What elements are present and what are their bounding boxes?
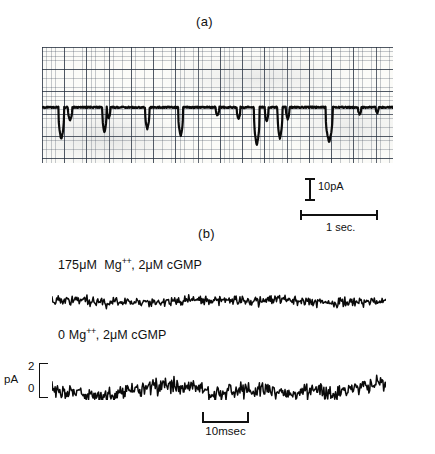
trace-1-separator: , 2 (131, 258, 145, 272)
panel-a-time-scale-label: 1 sec. (326, 221, 355, 233)
trace-2-ligand: cGMP (131, 328, 166, 342)
scalebar-cap-right (247, 412, 249, 423)
trace-2-ion-charge: ++ (86, 326, 96, 336)
trace-1-mu-unit-1: μM (79, 258, 97, 272)
panel-a-current-trace (42, 47, 393, 163)
figure-root: (a) 10pA 1 sec. (b) 175μM Mg++, 2μM cGMP… (0, 0, 435, 454)
panel-a-current-scale-label: 10pA (318, 180, 344, 192)
panel-b-trace-2 (52, 352, 386, 400)
trace-1-ligand: cGMP (167, 258, 202, 272)
scalebar-horizontal-line (300, 214, 378, 216)
panel-a-letter: (a) (196, 14, 213, 29)
y-axis-bracket (39, 363, 48, 398)
y-axis-tick-low: 0 (28, 382, 34, 394)
trace-2-ion-symbol: Mg (69, 328, 87, 342)
panel-b-trace-1 (52, 278, 386, 312)
trace-1-ion-charge: ++ (122, 256, 132, 266)
panel-a-chart-grid (42, 47, 393, 163)
panel-b-trace-1-svg (52, 278, 386, 312)
panel-b-letter: (b) (198, 226, 215, 241)
panel-b-trace-2-condition-label: 0 Mg++, 2μM cGMP (58, 326, 166, 342)
trace-1-ion-symbol: Mg (104, 258, 122, 272)
y-axis-unit-label: pA (4, 373, 18, 385)
scalebar-cap-bottom (305, 199, 315, 201)
scalebar-cap-right (376, 210, 378, 220)
panel-b-time-scale-label: 10msec (202, 425, 249, 437)
trace-2-separator: , 2 (96, 328, 110, 342)
scalebar-vertical-line (309, 178, 311, 201)
scalebar-horizontal-line (202, 421, 249, 423)
trace-1-mu-unit-2: μM (145, 258, 163, 272)
panel-b-trace-1-condition-label: 175μM Mg++, 2μM cGMP (58, 256, 202, 272)
trace-2-mu-unit: μM (110, 328, 128, 342)
y-axis-tick-high: 2 (28, 360, 34, 372)
panel-b-trace-2-svg (52, 352, 386, 400)
trace-1-mg-concentration: 175 (58, 258, 79, 272)
trace-2-mg-concentration: 0 (58, 328, 65, 342)
panel-b-y-axis: pA 2 0 (4, 360, 54, 406)
